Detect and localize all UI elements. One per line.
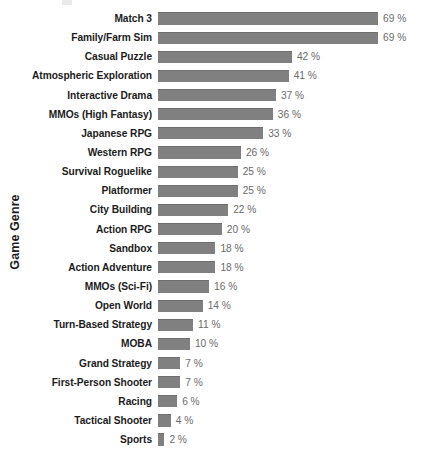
bar-category-label: Western RPG xyxy=(88,143,152,162)
bar xyxy=(158,204,228,216)
bar-value-label: 25 % xyxy=(243,181,266,200)
bar xyxy=(158,146,241,158)
bar-category-label: Interactive Drama xyxy=(67,86,152,105)
bar-value-label: 69 % xyxy=(383,9,406,28)
bar-value-label: 4 % xyxy=(176,411,194,430)
bar-category-label: Sports xyxy=(120,430,152,449)
bar-row: Tactical Shooter4 % xyxy=(0,411,422,430)
bar xyxy=(158,89,276,101)
bar xyxy=(158,357,180,369)
bar-value-label: 7 % xyxy=(185,354,203,373)
bar-value-label: 20 % xyxy=(227,220,250,239)
bar-value-label: 22 % xyxy=(233,200,256,219)
bar-category-label: MMOs (High Fantasy) xyxy=(49,105,152,124)
bar-category-label: MOBA xyxy=(121,334,152,353)
bar xyxy=(158,433,164,445)
bar xyxy=(158,376,180,388)
bar-category-label: Platformer xyxy=(102,181,152,200)
bar-value-label: 69 % xyxy=(383,28,406,47)
bar-fill xyxy=(158,108,273,120)
bar-fill xyxy=(158,185,238,197)
bar-value-label: 26 % xyxy=(246,143,269,162)
bar-row: MMOs (High Fantasy)36 % xyxy=(0,105,422,124)
bar-category-label: Tactical Shooter xyxy=(74,411,152,430)
bar-value-label: 10 % xyxy=(195,334,218,353)
bar xyxy=(158,319,193,331)
bar-fill xyxy=(158,261,215,273)
bar xyxy=(158,395,177,407)
bar-value-label: 16 % xyxy=(214,277,237,296)
bar-row: MMOs (Sci-Fi)16 % xyxy=(0,277,422,296)
bar-row: Japanese RPG33 % xyxy=(0,124,422,143)
bar-fill xyxy=(158,280,209,292)
bar-row: Western RPG26 % xyxy=(0,143,422,162)
bar xyxy=(158,108,273,120)
bar-fill xyxy=(158,300,203,312)
bar xyxy=(158,127,263,139)
bar-row: Survival Roguelike25 % xyxy=(0,162,422,181)
bar-fill xyxy=(158,395,177,407)
bar-value-label: 18 % xyxy=(220,258,243,277)
bar xyxy=(158,32,378,44)
bar-value-label: 7 % xyxy=(185,373,203,392)
bar-category-label: First-Person Shooter xyxy=(52,373,152,392)
bar-row: Match 369 % xyxy=(0,9,422,28)
bar-row: Sandbox18 % xyxy=(0,239,422,258)
bar-fill xyxy=(158,319,193,331)
cropped-top-artifact xyxy=(62,0,72,5)
bar-row: Platformer25 % xyxy=(0,181,422,200)
bar-fill xyxy=(158,146,241,158)
bar-value-label: 11 % xyxy=(198,315,220,334)
bar-row: Family/Farm Sim69 % xyxy=(0,28,422,47)
bar-fill xyxy=(158,223,222,235)
bar-value-label: 37 % xyxy=(281,86,304,105)
bar-row: Open World14 % xyxy=(0,296,422,315)
bar-category-label: Atmospheric Exploration xyxy=(32,66,152,85)
bar-fill xyxy=(158,70,289,82)
bar-category-label: Racing xyxy=(118,392,152,411)
bar-fill xyxy=(158,376,180,388)
bar-row: MOBA10 % xyxy=(0,334,422,353)
bar-row: Sports2 % xyxy=(0,430,422,449)
bar-value-label: 2 % xyxy=(169,430,187,449)
bar-category-label: City Building xyxy=(90,200,152,219)
bar-fill xyxy=(158,166,238,178)
bar xyxy=(158,51,292,63)
bar-value-label: 6 % xyxy=(182,392,200,411)
bar-category-label: Open World xyxy=(95,296,152,315)
bar-value-label: 18 % xyxy=(220,239,243,258)
bar xyxy=(158,261,215,273)
bar-category-label: Match 3 xyxy=(114,9,152,28)
bar-fill xyxy=(158,51,292,63)
bar xyxy=(158,185,238,197)
bar-row: Action Adventure18 % xyxy=(0,258,422,277)
bar xyxy=(158,300,203,312)
bar-category-label: Action RPG xyxy=(96,220,152,239)
bar-fill xyxy=(158,32,378,44)
bar-value-label: 14 % xyxy=(208,296,231,315)
bar-row: Grand Strategy7 % xyxy=(0,354,422,373)
bar-category-label: Action Adventure xyxy=(68,258,152,277)
plot-area: Match 369 %Family/Farm Sim69 %Casual Puz… xyxy=(0,9,422,459)
bar-fill xyxy=(158,433,164,445)
bar-row: First-Person Shooter7 % xyxy=(0,373,422,392)
bar-value-label: 41 % xyxy=(294,66,317,85)
bar-fill xyxy=(158,12,378,24)
bar xyxy=(158,242,215,254)
bar-value-label: 42 % xyxy=(297,47,320,66)
bar-fill xyxy=(158,242,215,254)
bar xyxy=(158,414,171,426)
bar-category-label: Casual Puzzle xyxy=(85,47,152,66)
bar xyxy=(158,12,378,24)
bar-category-label: Japanese RPG xyxy=(81,124,152,143)
bar xyxy=(158,338,190,350)
bar xyxy=(158,166,238,178)
bar-chart: Game Genre Match 369 %Family/Farm Sim69 … xyxy=(0,0,422,463)
bar-category-label: Grand Strategy xyxy=(79,354,152,373)
bar-category-label: MMOs (Sci-Fi) xyxy=(85,277,152,296)
bar-category-label: Survival Roguelike xyxy=(62,162,152,181)
bar-fill xyxy=(158,127,263,139)
bar-fill xyxy=(158,414,171,426)
bar xyxy=(158,70,289,82)
bar-value-label: 36 % xyxy=(278,105,301,124)
